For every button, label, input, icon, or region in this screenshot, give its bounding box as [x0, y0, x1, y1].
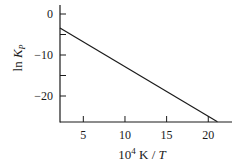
x-tick-label: 15	[161, 128, 173, 142]
y-ticks: 0−10−20	[34, 7, 66, 103]
series-line	[60, 28, 217, 122]
chart: 0−10−20 5101520 104 K / T ln KP	[0, 0, 242, 167]
x-tick-label: 10	[119, 128, 131, 142]
data-series	[60, 28, 217, 122]
y-tick-label: −10	[34, 48, 53, 62]
x-axis-label: 104 K / T	[118, 146, 166, 162]
y-axis-label: ln KP	[10, 44, 27, 71]
x-tick-label: 5	[80, 128, 86, 142]
y-tick-label: −20	[34, 89, 53, 103]
x-ticks: 5101520	[80, 116, 214, 142]
x-tick-label: 20	[202, 128, 214, 142]
y-tick-label: 0	[47, 7, 53, 21]
